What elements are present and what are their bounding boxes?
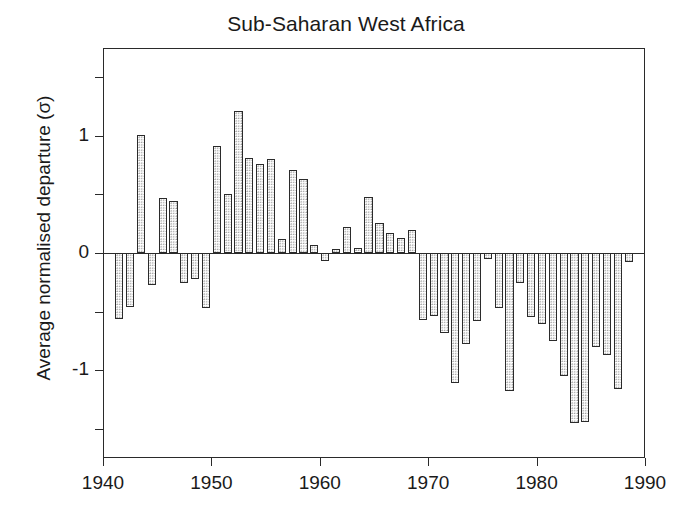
y-axis-tick: [95, 136, 103, 137]
bar: [310, 245, 318, 253]
x-axis-tick: [537, 458, 538, 466]
bar: [289, 170, 297, 253]
y-axis-tick-label: 0: [29, 241, 89, 263]
bar: [462, 253, 470, 344]
bar: [299, 179, 307, 253]
chart-title: Sub-Saharan West Africa: [0, 12, 692, 36]
x-axis-tick: [428, 458, 429, 466]
x-axis-tick: [320, 458, 321, 466]
bar: [560, 253, 568, 376]
x-axis-tick-label: 1950: [166, 472, 256, 494]
bar: [354, 248, 362, 253]
bar: [234, 111, 242, 253]
bar: [419, 253, 427, 320]
y-axis-tick: [95, 429, 103, 430]
y-axis-tick: [95, 312, 103, 313]
chart-figure: Sub-Saharan West Africa Average normalis…: [0, 0, 692, 531]
bar: [148, 253, 156, 285]
x-axis-tick: [645, 458, 646, 466]
bar: [408, 230, 416, 253]
bar: [343, 227, 351, 253]
bar: [570, 253, 578, 423]
x-axis-tick-label: 1960: [275, 472, 365, 494]
bar: [516, 253, 524, 283]
bar: [484, 253, 492, 259]
bar: [473, 253, 481, 321]
bar: [256, 164, 264, 253]
bar: [538, 253, 546, 324]
y-axis-tick-label: -1: [29, 358, 89, 380]
bar: [169, 201, 177, 253]
bar: [397, 238, 405, 253]
x-axis-tick: [211, 458, 212, 466]
bar: [614, 253, 622, 389]
y-axis-tick: [95, 194, 103, 195]
bar: [180, 253, 188, 283]
bar: [527, 253, 535, 317]
x-axis-tick-label: 1940: [58, 472, 148, 494]
y-axis-tick: [95, 77, 103, 78]
x-axis-tick-label: 1970: [383, 472, 473, 494]
bar: [603, 253, 611, 355]
y-axis-tick: [95, 370, 103, 371]
bar: [440, 253, 448, 333]
bar: [213, 146, 221, 253]
bar: [375, 223, 383, 253]
bar: [581, 253, 589, 422]
bar: [495, 253, 503, 308]
bar: [592, 253, 600, 347]
bar: [386, 233, 394, 253]
y-axis-tick-label: 1: [29, 124, 89, 146]
bar: [137, 135, 145, 253]
bar: [202, 253, 210, 308]
x-axis-tick-label: 1980: [492, 472, 582, 494]
bar: [332, 249, 340, 253]
bar: [191, 253, 199, 279]
bar: [224, 194, 232, 253]
bar: [159, 198, 167, 253]
bar: [245, 158, 253, 253]
y-axis-tick: [95, 253, 103, 254]
plot-area: [103, 48, 645, 458]
bar: [126, 253, 134, 307]
x-axis-tick: [103, 458, 104, 466]
bar: [364, 197, 372, 253]
bar: [505, 253, 513, 391]
bar: [321, 253, 329, 261]
bar: [267, 159, 275, 253]
bar: [549, 253, 557, 341]
bar: [115, 253, 123, 319]
bar: [451, 253, 459, 383]
bar: [278, 239, 286, 253]
x-axis-tick-label: 1990: [600, 472, 690, 494]
bar: [430, 253, 438, 316]
bar: [625, 253, 633, 262]
